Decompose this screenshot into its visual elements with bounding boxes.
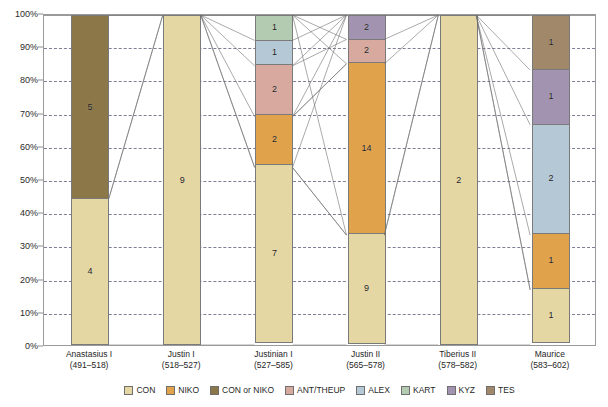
legend-label: KYZ bbox=[459, 385, 476, 395]
x-axis-category-name: Justin II bbox=[320, 349, 412, 360]
bar-segment-value-label: 1 bbox=[548, 256, 553, 265]
bar-column[interactable]: 9 bbox=[163, 15, 201, 345]
legend-color-swatch bbox=[486, 386, 495, 395]
bar-segment-value-label: 1 bbox=[548, 38, 553, 47]
x-axis-category-label: Maurice(583–602) bbox=[504, 349, 596, 371]
legend-color-swatch bbox=[447, 386, 456, 395]
x-axis-category-years: (518–527) bbox=[135, 360, 227, 371]
x-axis-category-label: Anastasius I(491–518) bbox=[43, 349, 135, 371]
bar-segment-value-label: 2 bbox=[548, 174, 553, 183]
bar-segment[interactable]: 5 bbox=[71, 15, 109, 199]
bar-segment[interactable]: 1 bbox=[532, 69, 570, 124]
y-axis-tick-label: 0% bbox=[0, 341, 38, 351]
bar-segment[interactable]: 2 bbox=[348, 15, 386, 40]
legend-label: NIKO bbox=[178, 385, 199, 395]
y-axis-tick-label: 20% bbox=[0, 275, 38, 285]
bar-segment[interactable]: 2 bbox=[532, 124, 570, 235]
y-axis: 100%90%80%70%60%50%40%30%20%10%0% bbox=[0, 14, 40, 346]
bar-stack: 22149 bbox=[348, 15, 386, 345]
bar-segment[interactable]: 2 bbox=[255, 114, 293, 165]
x-axis-category-years: (491–518) bbox=[43, 360, 135, 371]
chart-figure: 100%90%80%70%60%50%40%30%20%10%0% 549112… bbox=[0, 0, 608, 407]
bar-segment-value-label: 2 bbox=[272, 135, 277, 144]
bar-stack: 11211 bbox=[532, 15, 570, 345]
legend-color-swatch bbox=[285, 386, 294, 395]
x-axis-category-name: Justin I bbox=[135, 349, 227, 360]
x-axis-category-years: (578–582) bbox=[412, 360, 504, 371]
legend-item[interactable]: ALEX bbox=[356, 385, 390, 395]
legend-label: ANT/THEUP bbox=[297, 385, 345, 395]
bar-column[interactable]: 11211 bbox=[532, 15, 570, 345]
legend-label: ALEX bbox=[368, 385, 390, 395]
bar-segment-value-label: 2 bbox=[364, 23, 369, 32]
bar-stack: 9 bbox=[163, 15, 201, 345]
x-axis-category-name: Maurice bbox=[504, 349, 596, 360]
x-axis-category-label: Justinian I(527–585) bbox=[227, 349, 319, 371]
bar-segment[interactable]: 2 bbox=[348, 39, 386, 64]
legend-label: TES bbox=[498, 385, 515, 395]
bar-segment[interactable]: 1 bbox=[532, 15, 570, 70]
legend-color-swatch bbox=[401, 386, 410, 395]
bar-stack: 11227 bbox=[255, 15, 293, 345]
y-axis-tick-label: 30% bbox=[0, 241, 38, 251]
x-axis-category-years: (565–578) bbox=[320, 360, 412, 371]
y-axis-tick-label: 50% bbox=[0, 175, 38, 185]
bar-column[interactable]: 22149 bbox=[348, 15, 386, 345]
bar-segment[interactable]: 1 bbox=[255, 15, 293, 41]
legend-item[interactable]: ANT/THEUP bbox=[285, 385, 345, 395]
bar-segment[interactable]: 4 bbox=[71, 198, 109, 345]
bar-segment[interactable]: 7 bbox=[255, 164, 293, 343]
bar-segment-value-label: 1 bbox=[548, 311, 553, 320]
bar-segment[interactable]: 9 bbox=[163, 15, 201, 345]
bar-segment[interactable]: 2 bbox=[440, 15, 478, 345]
bar-segment-value-label: 9 bbox=[364, 284, 369, 293]
x-axis-category-name: Justinian I bbox=[227, 349, 319, 360]
y-axis-tick-label: 70% bbox=[0, 109, 38, 119]
bar-segment-value-label: 7 bbox=[272, 249, 277, 258]
x-axis-category-label: Justin I(518–527) bbox=[135, 349, 227, 371]
bar-column[interactable]: 54 bbox=[71, 15, 109, 345]
legend-item[interactable]: KART bbox=[401, 385, 436, 395]
bar-segment[interactable]: 9 bbox=[348, 233, 386, 344]
legend-color-swatch bbox=[124, 386, 133, 395]
legend-item[interactable]: KYZ bbox=[447, 385, 476, 395]
y-axis-tick-label: 80% bbox=[0, 75, 38, 85]
legend-label: CON bbox=[136, 385, 155, 395]
bar-column[interactable]: 2 bbox=[440, 15, 478, 345]
bar-segment-value-label: 14 bbox=[362, 144, 372, 153]
bar-segment-value-label: 1 bbox=[272, 23, 277, 32]
bar-stack: 2 bbox=[440, 15, 478, 345]
chart-legend: CONNIKOCON or NIKOANT/THEUPALEXKARTKYZTE… bbox=[43, 381, 596, 399]
x-axis-category-label: Justin II(565–578) bbox=[320, 349, 412, 371]
bar-segment[interactable]: 1 bbox=[532, 288, 570, 343]
bar-segment-value-label: 2 bbox=[456, 176, 461, 185]
x-axis-category-name: Anastasius I bbox=[43, 349, 135, 360]
bar-segment-value-label: 5 bbox=[88, 103, 93, 112]
legend-item[interactable]: TES bbox=[486, 385, 515, 395]
bar-stack: 54 bbox=[71, 15, 109, 345]
bar-segment-value-label: 4 bbox=[88, 267, 93, 276]
legend-label: CON or NIKO bbox=[222, 385, 274, 395]
bar-segment-value-label: 1 bbox=[548, 92, 553, 101]
legend-label: KART bbox=[413, 385, 436, 395]
legend-item[interactable]: CON bbox=[124, 385, 155, 395]
y-axis-tick-label: 100% bbox=[0, 9, 38, 19]
y-axis-tick-label: 60% bbox=[0, 142, 38, 152]
bar-segment-value-label: 2 bbox=[364, 46, 369, 55]
legend-item[interactable]: CON or NIKO bbox=[210, 385, 274, 395]
x-axis-category-label: Tiberius II(578–582) bbox=[412, 349, 504, 371]
legend-item[interactable]: NIKO bbox=[166, 385, 199, 395]
bar-segment[interactable]: 14 bbox=[348, 62, 386, 234]
y-axis-tick-label: 10% bbox=[0, 308, 38, 318]
x-axis-category-years: (527–585) bbox=[227, 360, 319, 371]
bar-segment[interactable]: 1 bbox=[532, 233, 570, 288]
bar-segment-value-label: 9 bbox=[180, 176, 185, 185]
bar-segment[interactable]: 1 bbox=[255, 40, 293, 66]
legend-color-swatch bbox=[210, 386, 219, 395]
bar-segment[interactable]: 2 bbox=[255, 64, 293, 115]
x-axis: Anastasius I(491–518)Justin I(518–527)Ju… bbox=[43, 349, 596, 377]
bar-column[interactable]: 11227 bbox=[255, 15, 293, 345]
x-axis-category-name: Tiberius II bbox=[412, 349, 504, 360]
y-axis-tick-label: 40% bbox=[0, 208, 38, 218]
x-axis-category-years: (583–602) bbox=[504, 360, 596, 371]
